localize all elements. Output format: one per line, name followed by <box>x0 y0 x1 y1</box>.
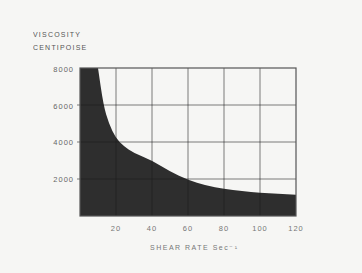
x-tick-100: 100 <box>245 224 275 233</box>
x-tick-60: 60 <box>173 224 203 233</box>
x-axis-label: SHEAR RATE Sec⁻¹ <box>150 244 239 252</box>
x-tick-20: 20 <box>101 224 131 233</box>
x-tick-120: 120 <box>281 224 311 233</box>
x-tick-80: 80 <box>209 224 239 233</box>
x-tick-40: 40 <box>137 224 167 233</box>
